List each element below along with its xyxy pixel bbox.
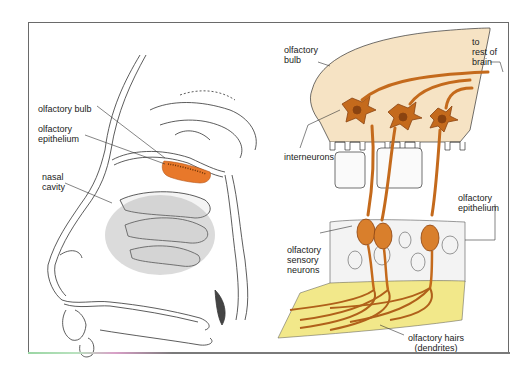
label-olfactory-epithelium-right: olfactory epithelium bbox=[458, 193, 499, 213]
label-interneurons: interneurons bbox=[284, 152, 334, 162]
cribriform-plate bbox=[330, 142, 465, 188]
nasal-cavity-shading bbox=[105, 195, 215, 275]
label-olfactory-bulb-left: olfactory bulb bbox=[38, 104, 92, 114]
label-nasal-cavity: nasal cavity bbox=[42, 172, 65, 192]
mucus-layer bbox=[278, 281, 465, 338]
label-olfactory-bulb-right: olfactory bulb bbox=[284, 45, 318, 65]
label-to-rest-of-brain: to rest of brain bbox=[472, 37, 497, 67]
epithelium-layer bbox=[330, 220, 465, 285]
label-olfactory-hairs: olfactory hairs (dendrites) bbox=[408, 333, 464, 353]
bottom-edge bbox=[28, 352, 510, 354]
label-olfactory-sensory-neurons: olfactory sensory neurons bbox=[287, 245, 321, 275]
olfactory-bulb-region bbox=[310, 28, 490, 142]
label-olfactory-epithelium-left: olfactory epithelium bbox=[38, 124, 79, 144]
left-leader-lines bbox=[65, 106, 165, 203]
diagram-art bbox=[0, 0, 529, 385]
